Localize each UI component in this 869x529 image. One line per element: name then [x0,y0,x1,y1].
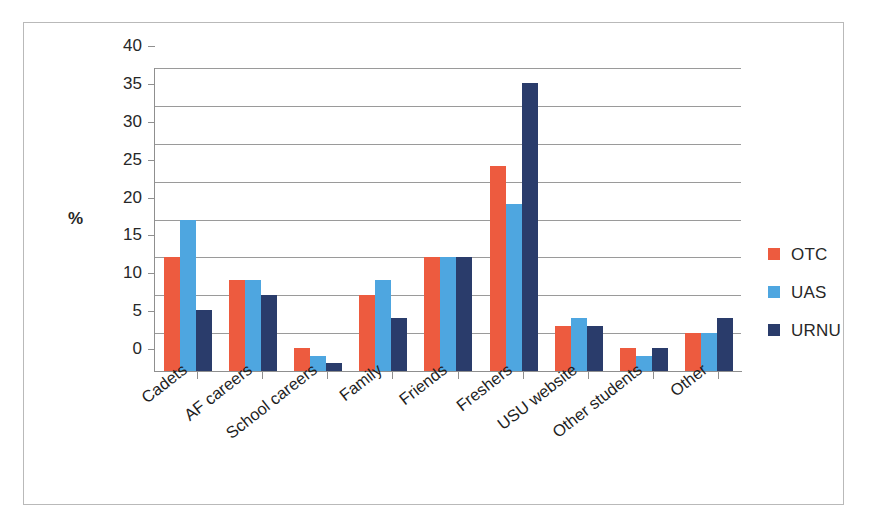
y-tick-mark [148,311,155,312]
y-tick-label: 30 [102,113,142,130]
bar [326,363,342,371]
x-tick-mark [588,371,589,379]
bar [245,280,261,371]
bar [652,348,668,371]
bar [440,257,456,371]
bar [490,166,506,371]
bar [522,83,538,371]
bar [636,356,652,371]
plot-area [155,68,741,371]
x-tick-mark [327,371,328,379]
bar-group [611,68,676,371]
y-tick-label: 10 [102,264,142,281]
x-tick-label: Freshers [268,360,515,529]
y-tick-mark [148,349,155,350]
y-tick-label: 20 [102,189,142,206]
y-axis-tick-labels: 4035302520151050 [92,23,142,423]
x-tick-mark [392,371,393,379]
y-tick-mark [148,160,155,161]
y-tick-label: 0 [102,340,142,357]
bar-group [676,68,741,371]
y-tick-mark [148,235,155,236]
bar [164,257,180,371]
bar [555,326,571,371]
bar [375,280,391,371]
x-tick-label: USU website [333,360,580,529]
y-tick-mark [148,46,155,47]
bar [701,333,717,371]
chart-legend: OTCUASURNU [768,235,864,349]
bar-group [220,68,285,371]
legend-swatch-icon [768,324,780,336]
bar [717,318,733,371]
bar [506,204,522,371]
x-tick-mark [523,371,524,379]
y-tick-mark [148,122,155,123]
bar [456,257,472,371]
y-tick-mark [148,84,155,85]
legend-label: UAS [791,284,827,301]
y-axis-title: % [68,209,83,229]
bar-group [285,68,350,371]
bar [620,348,636,371]
bar [359,295,375,371]
bar [424,257,440,371]
bar [571,318,587,371]
x-tick-mark [718,371,719,379]
legend-label: OTC [791,246,827,263]
x-tick-mark [458,371,459,379]
y-tick-mark [148,198,155,199]
x-tick-label: Other students [398,360,645,529]
bar-group [546,68,611,371]
legend-label: URNU [791,322,841,339]
y-tick-label: 35 [102,75,142,92]
bar [310,356,326,371]
y-tick-label: 5 [102,302,142,319]
legend-swatch-icon [768,248,780,260]
bar [587,326,603,371]
bar [196,310,212,371]
legend-item-uas[interactable]: UAS [768,273,864,311]
bar [180,220,196,372]
y-tick-label: 25 [102,151,142,168]
legend-item-urnu[interactable]: URNU [768,311,864,349]
x-tick-label: Other [463,360,710,529]
bar-group [350,68,415,371]
y-tick-label: 15 [102,226,142,243]
x-tick-mark [653,371,654,379]
bar [685,333,701,371]
bar [229,280,245,371]
bar [294,348,310,371]
x-tick-mark [197,371,198,379]
bar-group [415,68,480,371]
bar-group [481,68,546,371]
bar-group [155,68,220,371]
bar [391,318,407,371]
bar [261,295,277,371]
chart-frame: % 4035302520151050 CadetsAF careersSchoo… [23,22,844,505]
x-tick-label: Friends [203,360,450,529]
x-tick-mark [262,371,263,379]
legend-item-otc[interactable]: OTC [768,235,864,273]
x-tick-label: Family [137,360,384,529]
legend-swatch-icon [768,286,780,298]
y-tick-mark [148,273,155,274]
y-tick-label: 40 [102,37,142,54]
